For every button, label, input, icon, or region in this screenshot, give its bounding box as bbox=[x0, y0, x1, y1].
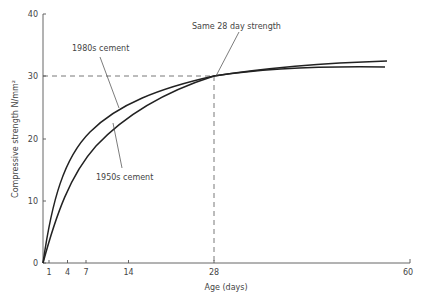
x-ticks bbox=[49, 259, 410, 263]
x-tick-14: 14 bbox=[123, 268, 133, 277]
x-axis-title: Age (days) bbox=[204, 283, 247, 292]
x-tick-60: 60 bbox=[403, 268, 413, 277]
leader-1980s bbox=[100, 57, 119, 108]
curve-1950s-cement bbox=[43, 61, 387, 263]
x-tick-7: 7 bbox=[83, 268, 88, 277]
x-tick-28: 28 bbox=[209, 268, 219, 277]
annotation-1980s-cement: 1980s cement bbox=[72, 44, 129, 53]
y-tick-10: 10 bbox=[28, 197, 38, 206]
y-tick-20: 20 bbox=[28, 135, 38, 144]
y-axis-title: Compressive strength N/mm² bbox=[11, 80, 20, 198]
chart-svg: 0 10 20 30 40 1 4 7 14 28 60 Age (days) … bbox=[0, 0, 422, 301]
strength-vs-age-chart: 0 10 20 30 40 1 4 7 14 28 60 Age (days) … bbox=[0, 0, 422, 301]
annotation-1950s-cement: 1950s cement bbox=[96, 173, 153, 182]
x-tick-labels: 1 4 7 14 28 60 bbox=[46, 268, 413, 277]
y-tick-40: 40 bbox=[28, 10, 38, 19]
y-tick-30: 30 bbox=[28, 72, 38, 81]
leader-1950s bbox=[113, 123, 122, 168]
leader-same-strength bbox=[216, 32, 239, 76]
x-tick-4: 4 bbox=[65, 268, 70, 277]
annotation-same-28-day-strength: Same 28 day strength bbox=[192, 22, 281, 31]
y-tick-labels: 0 10 20 30 40 bbox=[28, 10, 38, 268]
y-tick-0: 0 bbox=[33, 259, 38, 268]
x-tick-1: 1 bbox=[46, 268, 51, 277]
